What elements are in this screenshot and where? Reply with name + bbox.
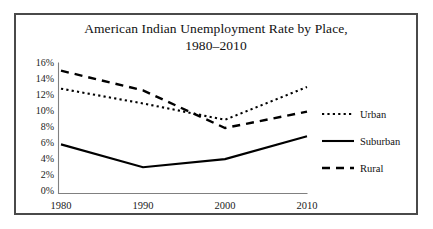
y-tick-label-0: 0% — [41, 185, 54, 196]
series-line-suburban — [61, 136, 307, 167]
y-tick-label-16: 16% — [36, 57, 54, 68]
y-tick-label-6: 6% — [41, 137, 54, 148]
plot-area: 16% 14% 12% 10% 8% 6% 4% 2% 0% 1980 1990… — [16, 15, 420, 217]
y-tick-label-8: 8% — [41, 121, 54, 132]
y-tick-label-2: 2% — [41, 169, 54, 180]
x-tick-label-2010: 2010 — [297, 200, 318, 211]
legend-label-urban: Urban — [360, 109, 387, 120]
x-tick-label-1990: 1990 — [133, 200, 154, 211]
y-tick-label-14: 14% — [36, 73, 54, 84]
y-tick-label-4: 4% — [41, 153, 54, 164]
series-line-rural — [61, 71, 307, 128]
y-tick-label-10: 10% — [36, 105, 54, 116]
chart-figure: American Indian Unemployment Rate by Pla… — [14, 13, 418, 215]
y-tick-label-12: 12% — [36, 89, 54, 100]
series-line-urban — [61, 87, 307, 120]
legend-label-suburban: Suburban — [360, 136, 401, 147]
x-tick-label-1980: 1980 — [51, 200, 72, 211]
legend-label-rural: Rural — [360, 163, 383, 174]
x-tick-label-2000: 2000 — [215, 200, 236, 211]
line-chart-svg: 16% 14% 12% 10% 8% 6% 4% 2% 0% 1980 1990… — [16, 15, 420, 217]
axis-lines — [59, 63, 308, 194]
chart-legend: Urban Suburban Rural — [322, 109, 401, 174]
